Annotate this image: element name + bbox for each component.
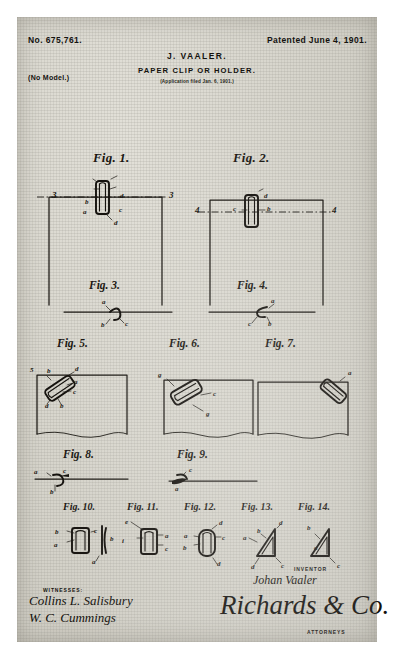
fig9-letter-c: c [189, 467, 192, 474]
fig11-letter-c: c [165, 546, 168, 553]
fig11-letter-a: a [165, 533, 169, 540]
fig5-letter-d: d [75, 366, 79, 373]
patented-date: Patented June 4, 1901. [267, 35, 367, 45]
fig13-letter-d: d [279, 520, 283, 527]
fig3-drawing [62, 299, 222, 339]
fig2-section-mark-right: 4 [332, 206, 337, 215]
fig1-letter-c: c [119, 207, 122, 214]
fig13-letter-a: a [243, 535, 247, 542]
fig8-letter-a: a [34, 469, 38, 476]
fig11-letter-e: e [125, 519, 128, 526]
document-header: No. 675,761. Patented June 4, 1901. J. V… [17, 17, 377, 97]
fig5-letter-d2: d [45, 403, 49, 410]
fig1-section-mark-left: 3 [52, 191, 57, 200]
inventor-signature: Johan Vaaler [253, 573, 317, 588]
fig2-letter-b: b [267, 206, 271, 213]
fig4-letter-a: a [271, 298, 275, 305]
fig1-letter-a: a [83, 209, 87, 216]
fig5-letter-b2: b [60, 403, 64, 410]
fig10-letter-a2: a [92, 559, 96, 566]
figure-caption-fig6: Fig. 6. [169, 337, 200, 349]
patent-drawing-sheet: No. 675,761. Patented June 4, 1901. J. V… [0, 0, 393, 649]
fig5-letter-a: a [74, 379, 78, 386]
fig6-letter-c: c [213, 391, 216, 398]
fig6-letter-g: g [158, 372, 162, 379]
fig5-section-mark: 5 [30, 367, 34, 374]
fig1-letter-d2: d [114, 220, 118, 227]
application-line: (Application filed Jan. 6, 1901.) [17, 79, 377, 84]
figure-caption-fig11: Fig. 11. [127, 501, 158, 512]
fig12-letter-d: d [219, 520, 223, 527]
figure-caption-fig10: Fig. 10. [63, 501, 95, 512]
figure-caption-fig4: Fig. 4. [237, 279, 268, 291]
figure-caption-fig12: Fig. 12. [184, 501, 216, 512]
fig11-letter-i: i [122, 538, 124, 545]
fig14-letter-b: b [307, 525, 311, 532]
attorney-signature: Richards & Co. [220, 590, 389, 621]
fig6-letter-g2: g [206, 411, 210, 418]
fig14-letter-a: a [314, 545, 318, 552]
fig10-letter-b2: b [110, 536, 114, 543]
figure-caption-fig1: Fig. 1. [93, 150, 129, 166]
fig12-letter-d2: d [217, 561, 221, 568]
fig12-letter-c: c [222, 535, 225, 542]
figure-caption-fig7: Fig. 7. [265, 337, 296, 349]
figure-caption-fig8: Fig. 8. [63, 448, 94, 460]
fig13-letter-b: b [257, 528, 261, 535]
figure-caption-fig3: Fig. 3. [89, 279, 120, 291]
figure-caption-fig14: Fig. 14. [298, 501, 330, 512]
fig8-letter-c: c [63, 468, 66, 475]
fig2-section-mark-left: 4 [195, 206, 200, 215]
fig1-letter-d: d [120, 193, 124, 200]
figure-caption-fig5: Fig. 5. [57, 337, 88, 349]
fig4-drawing [207, 299, 367, 339]
fig2-drawing [192, 177, 382, 297]
model-note: (No Model.) [28, 74, 69, 81]
patent-number: No. 675,761. [28, 35, 82, 45]
page-title: PAPER CLIP OR HOLDER. [17, 66, 377, 75]
fig14-letter-c: c [337, 563, 340, 570]
fig3-letter-c: c [125, 321, 128, 328]
fig9-letter-a: a [175, 486, 179, 493]
witness-signature-2: W. C. Cummings [29, 610, 116, 626]
fig10-letter-a: a [54, 542, 58, 549]
attorneys-label: ATTORNEYS [307, 629, 345, 635]
witness-signature-1: Collins L. Salisbury [29, 593, 133, 609]
fig12-letter-b: b [183, 545, 187, 552]
fig1-section-mark-right: 3 [169, 191, 174, 200]
fig3-letter-b: b [101, 322, 105, 329]
fig7-letter-a: a [348, 370, 352, 377]
figure-caption-fig9: Fig. 9. [177, 448, 208, 460]
fig5-letter-b: b [47, 368, 51, 375]
inventor-name: J. VAALER. [17, 51, 377, 61]
fig4-letter-c: c [248, 321, 251, 328]
figure-caption-fig13: Fig. 13. [241, 501, 273, 512]
fig10-letter-c: c [94, 528, 97, 535]
fig10-letter-b: b [55, 529, 59, 536]
figure-caption-fig2: Fig. 2. [233, 150, 269, 166]
fig8-letter-b: b [50, 489, 54, 496]
fig12-letter-a: a [184, 533, 188, 540]
fig13-letter-c: c [281, 563, 284, 570]
fig2-letter-c: c [233, 206, 236, 213]
inventor-label: INVENTOR [294, 566, 327, 572]
fig2-letter-d: d [264, 193, 268, 200]
fig5-letter-c: c [73, 389, 76, 396]
fig1-letter-b: b [85, 199, 89, 206]
fig3-letter-a: a [102, 299, 106, 306]
paper-background: No. 675,761. Patented June 4, 1901. J. V… [17, 17, 377, 642]
fig7-drawing [245, 357, 375, 447]
fig13-letter-d2: d [251, 564, 255, 571]
fig4-letter-b: b [268, 321, 272, 328]
